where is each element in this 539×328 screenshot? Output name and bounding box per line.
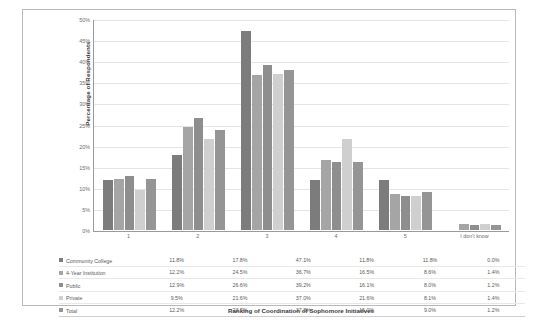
bar[interactable] [125, 176, 135, 230]
table-cell-value: 17.8% [208, 254, 271, 266]
bar[interactable] [183, 127, 193, 230]
bar[interactable] [480, 224, 490, 230]
table-cell-value: 24.5% [208, 266, 271, 279]
legend-swatch-icon [59, 308, 63, 312]
table-cell-value: 9.5% [145, 291, 208, 304]
table-cell-value: 8.1% [398, 291, 461, 304]
table-cell-value: 12.9% [145, 279, 208, 292]
bar[interactable] [273, 74, 283, 230]
table-cell-value: 16.5% [335, 266, 398, 279]
table-cell-value: 1.4% [462, 291, 525, 304]
legend-item-label: Total [66, 307, 77, 313]
chart-page: Percentage of Respondents 50%45%40%35%30… [0, 0, 539, 328]
legend-item[interactable]: Total [59, 304, 145, 317]
x-axis-tick-labels: 12345I don't know [94, 233, 509, 239]
legend-item[interactable]: Community College [59, 254, 145, 266]
bar[interactable] [284, 70, 294, 230]
data-table: Community College11.8%17.8%47.1%11.8%11.… [59, 254, 525, 317]
table-cell-value: 16.0% [335, 304, 398, 317]
table-cell-value: 21.6% [208, 291, 271, 304]
y-axis-tick-label: 0% [82, 228, 90, 234]
bar[interactable] [422, 192, 432, 230]
table-row: Public12.9%26.6%39.2%16.1%8.0%1.2% [59, 279, 525, 292]
legend-item-label: Community College [66, 257, 112, 263]
table-row: 4-Year Institution12.2%24.5%36.7%16.5%8.… [59, 266, 525, 279]
table-cell-value: 26.6% [208, 279, 271, 292]
bar[interactable] [172, 155, 182, 230]
bar[interactable] [491, 225, 501, 230]
plot-area: 50%45%40%35%30%25%20%15%10%5%0% [93, 20, 509, 232]
table-cell-value: 16.1% [335, 279, 398, 292]
x-axis-tick-label: 1 [94, 233, 163, 239]
table-cell-value: 1.4% [462, 266, 525, 279]
table-cell-value: 37.8% [272, 304, 335, 317]
table-cell-value: 12.2% [145, 304, 208, 317]
data-table-body: Community College11.8%17.8%47.1%11.8%11.… [59, 254, 525, 316]
y-axis-tick-label: 15% [79, 165, 90, 171]
bar[interactable] [103, 180, 113, 230]
bar[interactable] [411, 196, 421, 230]
bar[interactable] [135, 190, 145, 230]
table-cell-value: 1.2% [462, 279, 525, 292]
table-cell-value: 11.8% [145, 254, 208, 266]
bar[interactable] [204, 139, 214, 230]
bar[interactable] [146, 179, 156, 230]
y-axis-tick-label: 30% [79, 101, 90, 107]
legend-swatch-icon [59, 296, 63, 300]
table-row: Community College11.8%17.8%47.1%11.8%11.… [59, 254, 525, 266]
table-cell-value: 0.0% [462, 254, 525, 266]
bar[interactable] [310, 180, 320, 230]
bar[interactable] [252, 75, 262, 230]
y-axis-tick-label: 45% [79, 38, 90, 44]
chart-frame: Percentage of Respondents 50%45%40%35%30… [22, 9, 516, 306]
bar-group [302, 20, 371, 230]
bar[interactable] [342, 139, 352, 230]
table-cell-value: 23.7% [208, 304, 271, 317]
x-axis-tick-label: 4 [302, 233, 371, 239]
bar[interactable] [321, 160, 331, 230]
bar[interactable] [215, 130, 225, 230]
bar[interactable] [379, 180, 389, 230]
bar[interactable] [263, 65, 273, 230]
y-axis-tick-label: 50% [79, 17, 90, 23]
table-row: Private9.5%21.6%37.0%21.6%8.1%1.4% [59, 291, 525, 304]
table-row: Total12.2%23.7%37.8%16.0%9.0%1.2% [59, 304, 525, 317]
table-cell-value: 11.8% [335, 254, 398, 266]
legend-swatch-icon [59, 283, 63, 287]
bar[interactable] [194, 118, 204, 230]
x-axis-tick-label: I don't know [440, 233, 509, 239]
legend-item-label: Public [66, 282, 80, 288]
table-cell-value: 37.0% [272, 291, 335, 304]
bar[interactable] [401, 196, 411, 230]
table-cell-value: 1.2% [462, 304, 525, 317]
y-axis-tick-label: 10% [79, 186, 90, 192]
table-cell-value: 8.6% [398, 266, 461, 279]
table-cell-value: 36.7% [272, 266, 335, 279]
bar-group [95, 20, 164, 230]
bar[interactable] [459, 224, 469, 230]
legend-item-label: Private [66, 295, 83, 301]
table-cell-value: 9.0% [398, 304, 461, 317]
table-cell-value: 39.2% [272, 279, 335, 292]
table-cell-value: 8.0% [398, 279, 461, 292]
bar[interactable] [470, 225, 480, 230]
bar-group [164, 20, 233, 230]
bar[interactable] [332, 162, 342, 230]
y-axis-tick-label: 35% [79, 80, 90, 86]
bar[interactable] [114, 179, 124, 230]
legend-item[interactable]: 4-Year Institution [59, 266, 145, 279]
legend-item-label: 4-Year Institution [66, 270, 106, 276]
table-cell-value: 47.1% [272, 254, 335, 266]
y-axis-tick-label: 20% [79, 144, 90, 150]
bar[interactable] [241, 31, 251, 230]
legend-item[interactable]: Private [59, 291, 145, 304]
bar[interactable] [353, 162, 363, 230]
bar-groups [95, 20, 509, 230]
x-axis-tick-label: 3 [232, 233, 301, 239]
x-axis-tick-label: 5 [371, 233, 440, 239]
bar[interactable] [390, 194, 400, 230]
x-axis-tick-label: 2 [163, 233, 232, 239]
legend-item[interactable]: Public [59, 279, 145, 292]
table-cell-value: 21.6% [335, 291, 398, 304]
bar-group [371, 20, 440, 230]
